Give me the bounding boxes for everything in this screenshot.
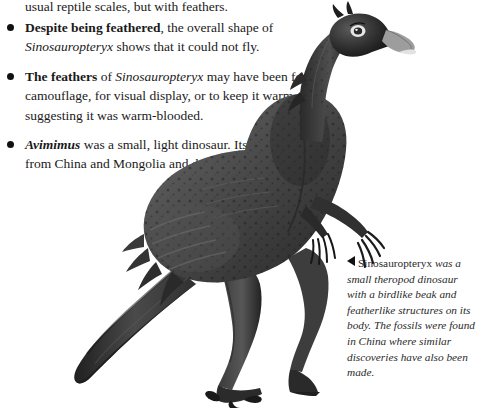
dinosaur-head [329,1,416,57]
list-item: The feathers of Sinosauropteryx may have… [0,67,320,125]
list-item: Despite being feathered, the overall sha… [0,18,320,57]
bullet-text-after-lead: of [97,69,115,84]
bullet-lead-bold: The feathers [25,69,97,84]
bullet-lead-bold: Despite being feathered [25,20,160,35]
fact-bullet-list: Despite being feathered, the overall sha… [0,18,320,184]
bullet-italic-term: Sinosauropteryx [25,39,113,54]
bullet-lead-bold-italic: Avimimus [25,137,80,152]
caption-text: was a small theropod dinosaur with a bir… [347,257,475,378]
bullet-text-after-lead: , the overall shape of [160,20,273,35]
dinosaur-tail [74,266,200,383]
partial-top-line: usual reptile scales, but with feathers. [25,0,315,14]
bullet-italic-term: Sinosauropteryx [115,69,203,84]
dinosaur-near-leg [205,260,262,408]
dinosaur-far-leg [288,248,329,396]
bullet-dot-icon [7,141,14,148]
bullet-dot-icon [7,73,14,80]
caption-roman-term: Sinosauropteryx [358,257,432,269]
bullet-dot-icon [7,24,14,31]
figure-caption: Sinosauropteryx was a small theropod din… [347,256,477,381]
book-page: usual reptile scales, but with feathers.… [0,0,479,408]
bullet-text-tail: shows that it could not fly. [113,39,260,54]
list-item: Avimimus was a small, light dinosaur. It… [0,135,320,174]
left-triangle-icon [347,256,355,266]
